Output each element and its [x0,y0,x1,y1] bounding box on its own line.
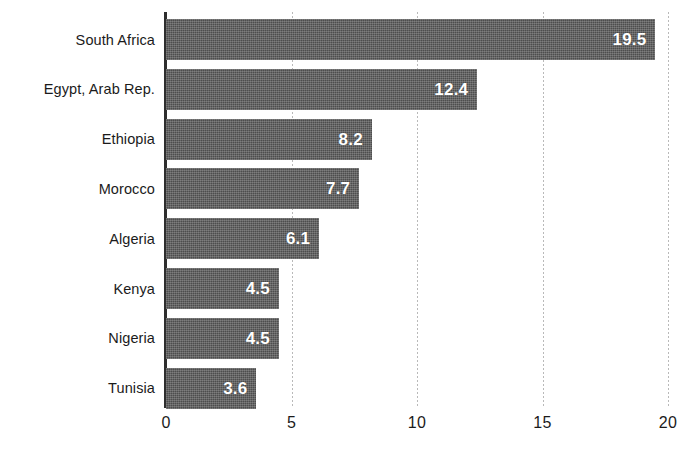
bar-row: Morocco7.7 [0,168,690,209]
category-label: South Africa [0,19,155,60]
category-label: Algeria [0,218,155,259]
bar-row: Algeria6.1 [0,218,690,259]
category-label: Ethiopia [0,119,155,160]
category-label: Kenya [0,268,155,309]
bar-row: Nigeria4.5 [0,318,690,359]
bar-row: South Africa19.5 [0,19,690,60]
bar: 6.1 [166,218,319,259]
category-label: Egypt, Arab Rep. [0,69,155,110]
bar: 8.2 [166,119,372,160]
x-tick-label: 15 [513,414,573,432]
bar: 4.5 [166,268,279,309]
bar-value-label: 4.5 [246,330,279,347]
category-label: Nigeria [0,318,155,359]
category-label: Tunisia [0,368,155,409]
bar-value-label: 6.1 [286,230,319,247]
bar: 19.5 [166,19,655,60]
bar: 7.7 [166,168,359,209]
category-label: Morocco [0,168,155,209]
x-tick-label: 0 [136,414,196,432]
bar: 4.5 [166,318,279,359]
bar-value-label: 19.5 [613,31,656,48]
x-tick-label: 10 [387,414,447,432]
bar: 3.6 [166,368,256,409]
bar: 12.4 [166,69,477,110]
bar-row: Ethiopia8.2 [0,119,690,160]
bar-chart: South Africa19.5Egypt, Arab Rep.12.4Ethi… [0,0,690,462]
bar-value-label: 3.6 [223,380,256,397]
plot-area: South Africa19.5Egypt, Arab Rep.12.4Ethi… [0,0,690,462]
bar-value-label: 4.5 [246,280,279,297]
x-tick-label: 20 [638,414,690,432]
bar-row: Tunisia3.6 [0,368,690,409]
bar-value-label: 7.7 [326,180,359,197]
bar-row: Kenya4.5 [0,268,690,309]
bar-value-label: 12.4 [434,81,477,98]
bar-row: Egypt, Arab Rep.12.4 [0,69,690,110]
bar-value-label: 8.2 [339,131,372,148]
x-tick-label: 5 [262,414,322,432]
